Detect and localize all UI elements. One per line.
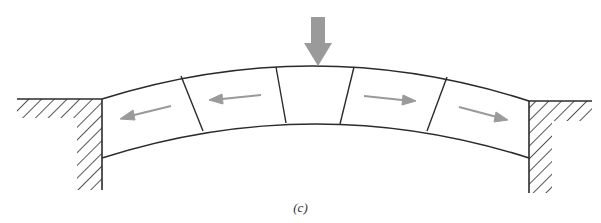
arch-extrados [102, 66, 529, 101]
right-thrust-arrow-inner [364, 95, 416, 105]
arch-intrados [102, 124, 529, 158]
left-thrust-arrow-inner [209, 94, 261, 104]
arch [102, 66, 529, 158]
right-abutment [525, 97, 597, 197]
right-hatch [525, 97, 597, 197]
figure-caption: (c) [0, 200, 601, 216]
right-thrust-arrow-outer [459, 107, 508, 122]
left-thrust-arrow-outer [120, 106, 171, 120]
thrust-arrows [120, 94, 508, 122]
joint-2 [276, 67, 286, 123]
downward-load-arrow [304, 17, 332, 66]
joint-4 [427, 77, 447, 131]
joint-1 [181, 76, 203, 131]
arch-diagram [0, 0, 601, 223]
left-hatch [10, 95, 110, 195]
joint-3 [340, 67, 354, 124]
left-abutment [10, 95, 110, 195]
